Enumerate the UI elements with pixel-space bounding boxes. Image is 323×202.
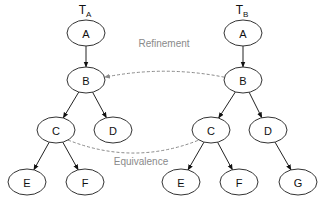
refinement-relation-line [105,71,225,77]
tree-title-ta: TA [79,3,92,19]
tree-title-tb: TB [236,3,249,19]
node-tb-c: C [192,117,230,143]
node-label: D [109,125,117,137]
node-tb-d: D [249,117,287,143]
tree-diagram: RefinementEquivalence ABCDEFABCDEFG TATB [0,0,323,202]
node-ta-c: C [37,117,75,143]
node-ta-a: A [67,20,105,46]
node-label: F [236,177,243,189]
node-label: B [82,75,89,87]
node-label: E [23,177,30,189]
node-tb-f: F [220,169,258,195]
edge-tb-d-g [275,142,291,170]
edge-ta-b-d [93,92,107,118]
edge-ta-c-e [34,142,49,170]
equivalence-relation-line [68,140,199,153]
node-label: F [82,177,89,189]
node-tb-b: B [224,67,262,93]
edge-tb-c-e [188,142,204,170]
edge-ta-b-c [63,92,79,118]
equivalence-label: Equivalence [114,156,169,167]
edge-tb-c-f [218,142,233,170]
node-label: C [52,125,60,137]
node-ta-d: D [94,117,132,143]
node-label: A [239,28,247,40]
node-label: A [82,28,90,40]
refinement-label: Refinement [138,38,189,49]
titles-layer: TATB [79,3,249,19]
node-label: B [239,75,246,87]
node-tb-g: G [279,169,317,195]
edges-layer [34,46,291,170]
node-label: G [294,177,303,189]
node-label: E [177,177,184,189]
edge-tb-b-c [219,92,236,118]
node-ta-e: E [8,169,46,195]
edge-ta-c-f [63,142,78,170]
edge-tb-b-d [249,92,262,117]
node-ta-f: F [66,169,104,195]
node-tb-e: E [162,169,200,195]
node-label: C [207,125,215,137]
node-ta-b: B [67,67,105,93]
node-tb-a: A [224,20,262,46]
node-label: D [264,125,272,137]
